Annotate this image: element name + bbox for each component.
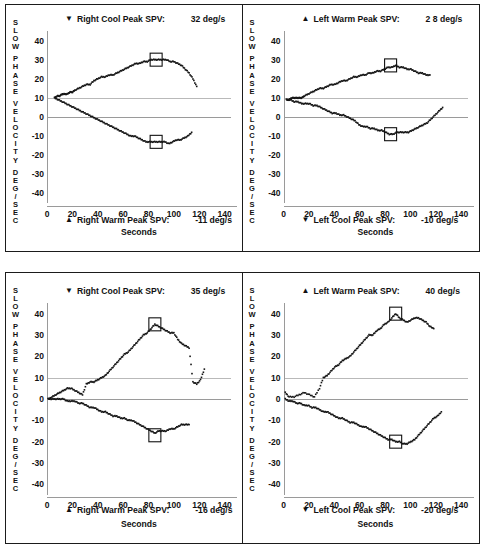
chart-panel-bottom-right: SLOWPHASEVELOCITYDEG/SEC 403020100-10-20… — [243, 273, 480, 543]
series-layer — [243, 273, 480, 543]
chart-panel-top-left: SLOWPHASEVELOCITYDEG/SEC 403020100-10-20… — [6, 5, 243, 251]
series-right-warm — [54, 97, 193, 145]
chart-row-bottom: SLOWPHASEVELOCITYDEG/SEC 403020100-10-20… — [5, 272, 480, 544]
series-layer — [6, 273, 242, 543]
series-right-cool — [54, 58, 198, 98]
chart-row-top: SLOWPHASEVELOCITYDEG/SEC 403020100-10-20… — [5, 4, 480, 252]
series-right-warm — [47, 398, 189, 434]
series-layer — [6, 5, 242, 251]
series-left-cool — [284, 398, 442, 445]
series-left-cool — [285, 99, 443, 136]
series-left-warm — [284, 313, 434, 398]
series-right-cool — [47, 323, 205, 399]
series-layer — [243, 5, 480, 251]
peak-marker-box — [384, 59, 396, 72]
series-left-warm — [285, 65, 430, 101]
chart-panel-top-right: SLOWPHASEVELOCITYDEG/SEC 403020100-10-20… — [243, 5, 480, 251]
figure-sheet: SLOWPHASEVELOCITYDEG/SEC 403020100-10-20… — [0, 0, 487, 549]
chart-panel-bottom-left: SLOWPHASEVELOCITYDEG/SEC 403020100-10-20… — [6, 273, 243, 543]
